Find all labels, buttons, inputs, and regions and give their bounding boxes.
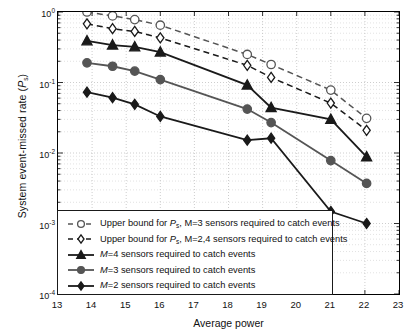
legend-symbol-circle-filled-icon — [64, 263, 100, 277]
legend-label: Upper bound for Ps, M=3 sensors required… — [100, 218, 340, 229]
data-point-marker — [109, 93, 116, 103]
x-tick-label: 18 — [216, 299, 240, 310]
x-tick-label: 20 — [284, 299, 308, 310]
data-point-marker — [131, 67, 139, 75]
data-point-marker — [78, 282, 84, 290]
series-upper-bound-M3 — [83, 12, 371, 123]
y-tick-label: 10-3 — [25, 218, 55, 231]
legend-label-tail: =2 sensors required to catch events — [108, 280, 256, 290]
y-tick-label: 100 — [25, 6, 55, 19]
legend-symbol-diamond-open-icon — [64, 232, 100, 246]
data-point-marker — [267, 118, 275, 126]
data-point-marker — [363, 125, 370, 135]
series-line — [87, 92, 367, 223]
x-tick-label: 17 — [181, 299, 205, 310]
legend-item-M2[interactable]: M=2 sensors required to catch events — [58, 278, 332, 294]
legend-symbol-diamond-filled-icon — [64, 279, 100, 293]
legend-label-subscript: s — [176, 238, 179, 245]
data-point-marker — [267, 60, 275, 68]
data-point-marker — [244, 60, 251, 70]
data-point-marker — [83, 19, 90, 29]
x-tick-label: 21 — [318, 299, 342, 310]
y-axis-ticks: 10010-110-210-310-4 — [22, 0, 55, 334]
data-point-marker — [362, 114, 370, 122]
data-point-marker — [131, 26, 138, 36]
legend-item-upper-bound-M3[interactable]: Upper bound for Ps, M=3 sensors required… — [58, 216, 332, 232]
x-tick-label: 15 — [113, 299, 137, 310]
data-point-marker — [327, 86, 335, 94]
legend-item-M4[interactable]: M=4 sensors required to catch events — [58, 247, 332, 263]
legend-label-prefix: Upper bound for — [100, 218, 170, 228]
legend-label: Upper bound for Ps, M=2,4 sensors requir… — [100, 234, 347, 245]
data-point-marker — [78, 235, 84, 243]
data-point-marker — [327, 98, 334, 108]
legend-label-tail: =4 sensors required to catch events — [108, 249, 256, 259]
legend-item-M3[interactable]: M=3 sensors required to catch events — [58, 263, 332, 279]
legend-label-tail: =3 sensors required to catch events — [108, 265, 256, 275]
data-point-marker — [156, 21, 164, 29]
legend-label-prefix: Upper bound for — [100, 234, 170, 244]
data-point-marker — [243, 105, 251, 113]
data-point-marker — [157, 111, 164, 121]
data-point-marker — [327, 156, 335, 164]
legend-label-symbol: M — [100, 280, 108, 290]
data-point-marker — [362, 179, 370, 187]
legend-label: M=4 sensors required to catch events — [100, 249, 255, 260]
x-tick-label: 16 — [147, 299, 171, 310]
data-point-marker — [156, 75, 164, 83]
legend-symbol-triangle-icon — [64, 248, 100, 262]
x-tick-label: 23 — [386, 299, 410, 310]
x-tick-label: 19 — [250, 299, 274, 310]
figure: System event-missed rate (Ps) 10010-110-… — [0, 0, 415, 334]
legend-label-subscript: s — [176, 222, 179, 229]
legend-item-upper-bound-M24[interactable]: Upper bound for Ps, M=2,4 sensors requir… — [58, 232, 332, 248]
legend-label-tail: , M=3 sensors required to catch events — [179, 218, 339, 228]
data-point-marker — [243, 50, 251, 58]
data-point-marker — [363, 219, 370, 229]
data-point-marker — [83, 87, 90, 97]
y-tick-label: 10-1 — [25, 77, 55, 90]
data-point-marker — [78, 220, 85, 227]
legend-label-symbol: M — [100, 265, 108, 275]
series-line — [87, 63, 367, 184]
x-axis-label: Average power — [57, 317, 400, 329]
data-point-marker — [108, 62, 116, 70]
data-point-marker — [268, 72, 275, 82]
data-point-marker — [109, 24, 116, 34]
x-tick-label: 14 — [79, 299, 103, 310]
legend-label-tail: , M=2,4 sensors required to catch events — [179, 234, 347, 244]
x-tick-label: 22 — [352, 299, 376, 310]
data-point-marker — [108, 12, 116, 20]
data-point-marker — [157, 33, 164, 43]
y-tick-label: 10-2 — [25, 147, 55, 160]
legend-label: M=2 sensors required to catch events — [100, 280, 255, 291]
data-point-marker — [83, 59, 91, 67]
data-point-marker — [82, 36, 92, 45]
legend: Upper bound for Ps, M=3 sensors required… — [57, 210, 333, 295]
legend-label: M=3 sensors required to catch events — [100, 265, 255, 276]
data-point-marker — [78, 267, 85, 274]
series-M4 — [82, 36, 372, 161]
data-point-marker — [131, 15, 139, 23]
x-tick-label: 13 — [45, 299, 69, 310]
data-point-marker — [244, 135, 251, 145]
legend-label-symbol: M — [100, 249, 108, 259]
data-point-marker — [131, 99, 138, 109]
data-point-marker — [83, 12, 91, 16]
legend-symbol-circle-open-icon — [64, 217, 100, 231]
